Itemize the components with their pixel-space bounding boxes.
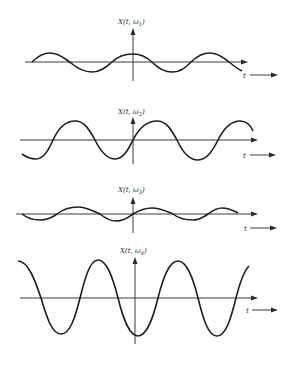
y-axis-label: X(t, ω1) <box>117 18 145 27</box>
time-direction-arrowhead-icon <box>270 226 277 231</box>
value-axis-arrowhead-icon <box>131 197 136 204</box>
value-axis-arrowhead-icon <box>131 28 136 35</box>
time-axis-arrowhead-icon <box>251 296 258 301</box>
x-axis-label: t <box>244 225 247 233</box>
panel-omega2: X(t, ω2) t <box>20 108 276 164</box>
panel-omega1: X(t, ω1) t <box>25 18 278 81</box>
panel-omega4: X(t, ω4) t <box>18 247 278 344</box>
time-direction-arrowhead-icon <box>269 153 276 158</box>
time-axis-arrowhead-icon <box>241 60 248 65</box>
value-axis-arrowhead-icon <box>131 117 136 124</box>
time-axis-arrowhead-icon <box>251 212 258 217</box>
x-axis-label: t <box>243 152 246 160</box>
time-direction-arrowhead-icon <box>271 73 278 78</box>
sample-functions-diagram: X(t, ω1) t X(t, ω2) t X(t, ω3) t <box>0 0 291 365</box>
y-axis-label: X(t, ω4) <box>119 247 147 256</box>
x-axis-label: t <box>246 307 249 315</box>
panel-omega3: X(t, ω3) t <box>16 186 277 233</box>
y-axis-label: X(t, ω3) <box>117 186 145 195</box>
x-axis-label: t <box>243 72 246 80</box>
y-axis-label: X(t, ω2) <box>117 108 145 117</box>
time-direction-arrowhead-icon <box>271 308 278 313</box>
value-axis-arrowhead-icon <box>133 257 138 264</box>
time-axis-arrowhead-icon <box>251 138 258 143</box>
